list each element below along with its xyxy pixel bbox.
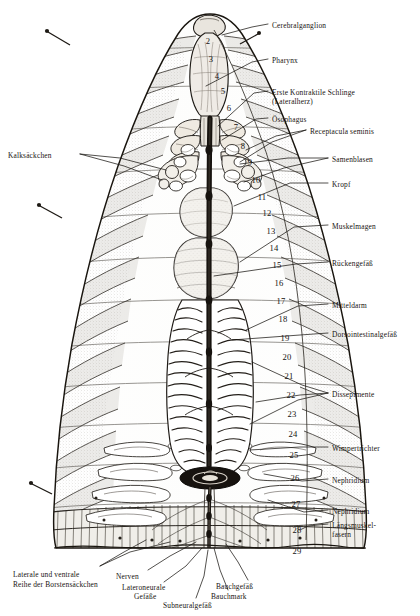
label-oesophagus: Ösophagus (272, 115, 306, 124)
segment-number-21: 21 (281, 371, 297, 381)
label-pharynx: Pharynx (272, 56, 298, 65)
label-muskelmagen: Muskelmagen (332, 222, 376, 231)
segment-number-25: 25 (286, 450, 302, 460)
segment-number-15: 15 (269, 260, 285, 270)
segment-number-16: 16 (271, 278, 287, 288)
segment-number-12: 12 (259, 208, 275, 218)
segment-number-28: 28 (289, 525, 305, 535)
segment-number-17: 17 (273, 296, 289, 306)
label-cerebralganglion: Cerebralganglion (272, 21, 326, 30)
segment-number-3: 3 (203, 54, 219, 64)
label-laengsmuskelfasern-1: Längsmuskel- (332, 521, 376, 530)
segment-number-20: 20 (279, 352, 295, 362)
label-laterale-ventrale-reihe-1: Laterale und ventrale (13, 570, 80, 579)
segment-number-9: 9 (242, 157, 258, 167)
segment-number-4: 4 (209, 71, 225, 81)
label-nerven: Nerven (116, 572, 139, 581)
label-lateroneurale-1: Lateroneurale (122, 583, 165, 592)
label-nephridium-2: Nephridium (332, 507, 370, 516)
label-lateroneurale-2: Gefäße (134, 592, 156, 601)
label-erste-kontraktile-schlinge: Erste Kontraktile Schlinge (272, 88, 355, 97)
segment-number-22: 22 (283, 390, 299, 400)
label-kalksaeckchen: Kalksäckchen (8, 151, 52, 160)
segment-number-6: 6 (221, 103, 237, 113)
segment-number-8: 8 (235, 141, 251, 151)
label-receptacula-seminis: Receptacula seminis (310, 127, 374, 136)
segment-number-19: 19 (277, 333, 293, 343)
label-dissepimente: Dissepimente (332, 390, 374, 399)
label-mitteldarm: Mitteldarm (332, 301, 367, 310)
label-kropf: Kropf (332, 180, 351, 189)
segment-number-26: 26 (287, 473, 303, 483)
segment-number-27: 27 (288, 499, 304, 509)
segment-number-29: 29 (289, 546, 305, 556)
label-subneuralgefaess: Subneuralgefäß (163, 601, 212, 610)
segment-number-23: 23 (284, 409, 300, 419)
segment-number-7: 7 (228, 122, 244, 132)
segment-number-18: 18 (275, 314, 291, 324)
label-laengsmuskelfasern-2: fasern (332, 530, 351, 539)
label-wimpertrichter: Wimpertrichter (332, 444, 380, 453)
segment-number-2: 2 (200, 36, 216, 46)
label-rueckengefaess: Rückengefäß (332, 259, 373, 268)
segment-number-13: 13 (263, 226, 279, 236)
label-bauchmark: Bauchmark (211, 592, 247, 601)
segment-number-5: 5 (215, 86, 231, 96)
label-bauchgefaess: Bauchgefäß (216, 582, 253, 591)
label-lateralherz: (Lateralherz) (272, 97, 313, 106)
label-nephridium-1: Nephridium (332, 476, 370, 485)
segment-number-24: 24 (285, 429, 301, 439)
segment-number-11: 11 (254, 192, 270, 202)
segment-number-10: 10 (248, 175, 264, 185)
segment-number-14: 14 (266, 243, 282, 253)
label-samenblasen: Samenblasen (332, 155, 373, 164)
label-laterale-ventrale-reihe-2: Reihe der Borstensäckchen (13, 580, 98, 589)
label-dorsointestinalgefaess: Dorsointestinalgefäß (332, 330, 397, 339)
